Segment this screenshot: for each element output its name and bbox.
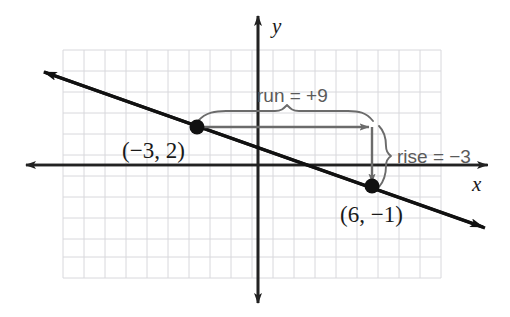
slope-diagram: y x run = +9 rise = −3 (−3, 2) (6, −1) xyxy=(0,0,510,317)
rise-label: rise = −3 xyxy=(397,146,471,167)
point-marker-a xyxy=(190,120,205,135)
x-axis-label: x xyxy=(471,172,482,196)
rise-brace xyxy=(379,126,391,187)
y-axis-label: y xyxy=(270,14,282,38)
point-label-a: (−3, 2) xyxy=(122,138,185,163)
run-label: run = +9 xyxy=(257,85,328,106)
point-label-b: (6, −1) xyxy=(340,202,403,227)
point-marker-b xyxy=(365,179,380,194)
